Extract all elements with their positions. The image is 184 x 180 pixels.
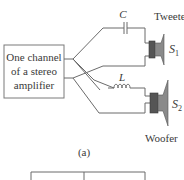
woofer-symbol: S2 — [172, 97, 182, 113]
amplifier-label-line1: One channel — [6, 51, 61, 63]
capacitor-label: C — [119, 8, 127, 20]
woofer-speaker-icon — [150, 80, 168, 126]
amplifier-label-line2: of a stereo — [11, 65, 57, 77]
crossover-diagram: One channel of a stereo amplifier C L — [0, 0, 184, 180]
tweeter-label: Tweeter — [154, 10, 184, 22]
lower-terminal-wires — [64, 56, 150, 113]
amplifier-label-line3: amplifier — [14, 79, 55, 91]
inductor-label: L — [118, 71, 125, 83]
inductor — [108, 84, 150, 96]
next-figure-partial-box — [31, 172, 145, 180]
tweeter-symbol: S1 — [169, 42, 179, 58]
tweeter-speaker-icon — [149, 34, 164, 65]
figure-caption: (a) — [78, 146, 91, 159]
upper-terminal-wires — [64, 28, 120, 90]
capacitor — [120, 22, 149, 43]
wire-to-inductor — [73, 59, 114, 88]
woofer-label: Woofer — [145, 132, 178, 144]
